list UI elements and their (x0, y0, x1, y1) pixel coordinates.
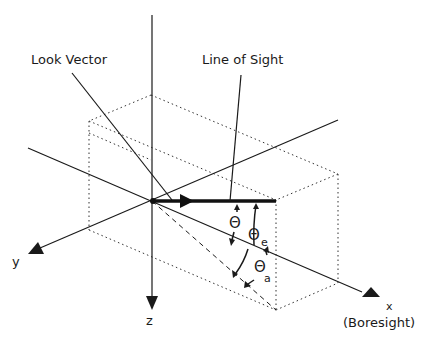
z-axis-label: z (146, 313, 153, 328)
boresight-label: (Boresight) (343, 315, 415, 330)
los-arrow-icon (180, 194, 194, 208)
x-axis (28, 148, 380, 297)
theta-label: Θ (229, 214, 241, 232)
x-axis-label: x (386, 300, 393, 313)
look-vector-label: Look Vector (31, 52, 108, 67)
look-vector-line (72, 73, 172, 200)
y-axis (28, 120, 338, 254)
coordinate-diagram: Look Vector Line of Sight y z x (Boresig… (0, 0, 428, 348)
svg-text:a: a (264, 272, 271, 285)
x-arrow-icon (362, 287, 380, 297)
theta-e-label: Θ e (248, 226, 268, 249)
line-of-sight-leader (230, 75, 241, 201)
svg-text:Θ: Θ (248, 226, 260, 244)
theta-a-label: Θ a (254, 258, 271, 285)
z-arrow-icon (146, 296, 158, 310)
svg-text:e: e (261, 236, 268, 249)
line-of-sight-label: Line of Sight (202, 52, 283, 67)
y-arrow-icon (28, 242, 44, 254)
z-axis (146, 15, 158, 310)
y-axis-label: y (12, 254, 20, 269)
projection-dashed-line (152, 201, 276, 310)
